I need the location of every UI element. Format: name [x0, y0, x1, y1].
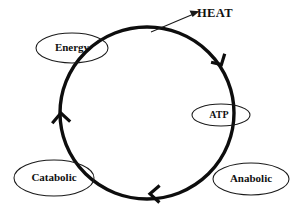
- metabolism-cycle-diagram: HEAT Energy ATP Catabolic Anabolic: [0, 0, 298, 213]
- heat-label: HEAT: [197, 6, 233, 20]
- anabolic-label: Anabolic: [230, 172, 272, 184]
- node-energy[interactable]: Energy: [36, 33, 108, 63]
- catabolic-label: Catabolic: [31, 171, 76, 183]
- energy-label: Energy: [55, 41, 90, 53]
- atp-label: ATP: [209, 109, 228, 120]
- node-anabolic[interactable]: Anabolic: [213, 163, 289, 195]
- node-atp[interactable]: ATP: [192, 104, 250, 126]
- heat-leader-line: [151, 13, 196, 32]
- diagram-canvas: HEAT Energy ATP Catabolic Anabolic: [0, 0, 298, 213]
- node-catabolic[interactable]: Catabolic: [14, 160, 94, 196]
